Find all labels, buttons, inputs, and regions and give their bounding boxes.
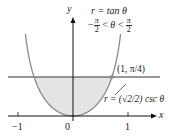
tan-domain: −π2 < θ < π2 <box>88 17 132 34</box>
tick-label-neg1: −1 <box>12 122 23 132</box>
y-axis-arrow-icon <box>71 17 76 23</box>
y-axis-label: y <box>67 4 71 14</box>
tan-equation: r = tan θ <box>91 6 127 16</box>
intersection-point <box>110 75 114 79</box>
tick-label-1: 1 <box>125 122 130 132</box>
csc-equation: r = (√2/2) csc θ <box>104 95 164 105</box>
tick-label-0: 0 <box>65 122 70 132</box>
x-axis-arrow-icon <box>151 114 157 119</box>
intersection-label: (1, π/4) <box>117 65 145 75</box>
x-axis-label: x <box>159 110 163 120</box>
